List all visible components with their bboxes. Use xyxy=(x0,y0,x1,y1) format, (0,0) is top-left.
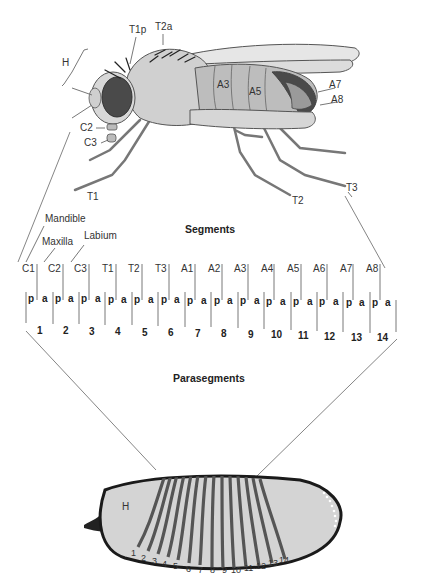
compartment-a: a xyxy=(121,294,127,305)
segment-label: T2 xyxy=(128,263,140,274)
label-labium: Labium xyxy=(84,230,117,241)
parasegment-numbers: 1 2 3 4 5 6 7 8 9 10 11 12 13 14 xyxy=(37,325,389,343)
adult-fly-illustration xyxy=(72,44,359,195)
compartment-p: p xyxy=(28,293,34,304)
segment-label: A5 xyxy=(287,263,300,274)
segment-label: A1 xyxy=(181,263,194,274)
parasegment-number: 8 xyxy=(221,328,227,339)
parasegments-title: Parasegments xyxy=(173,372,245,384)
parasegment-number: 2 xyxy=(63,325,69,336)
compartment-p: p xyxy=(108,294,114,305)
compartment-a: a xyxy=(95,293,101,304)
compartment-p: p xyxy=(161,294,167,305)
compartment-p: p xyxy=(240,295,246,306)
label-t1: T1 xyxy=(87,191,99,202)
mouthpart-labels: Mandible Maxilla Labium xyxy=(26,213,117,262)
embryo-stripe-number: 5 xyxy=(173,561,178,571)
label-c3: C3 xyxy=(84,137,97,148)
parasegment-number: 14 xyxy=(377,332,389,343)
parasegment-number: 1 xyxy=(37,325,43,336)
label-maxilla: Maxilla xyxy=(42,236,74,247)
embryo-stripe-number: 8 xyxy=(210,565,215,575)
segments-title: Segments xyxy=(185,223,235,235)
segment-label: A7 xyxy=(340,263,353,274)
segment-label: C2 xyxy=(48,263,61,274)
embryo-stripe-number: 10 xyxy=(231,565,241,575)
parasegment-number: 10 xyxy=(271,329,283,340)
embryo-stripe-number: 6 xyxy=(186,564,191,574)
segment-label: A6 xyxy=(313,263,326,274)
parasegment-number: 13 xyxy=(351,332,363,343)
embryo-stripe-number: 7 xyxy=(198,565,203,575)
compartment-a: a xyxy=(227,295,233,306)
label-t3: T3 xyxy=(346,182,358,193)
embryo-stripe-number: 12 xyxy=(256,561,266,571)
label-a8: A8 xyxy=(331,94,344,105)
compartment-p: p xyxy=(134,294,140,305)
compartment-a: a xyxy=(280,296,286,307)
embryo-stripe-number: 14 xyxy=(279,555,289,565)
segment-label: C1 xyxy=(22,263,35,274)
label-c2: C2 xyxy=(80,122,93,133)
parasegment-number: 6 xyxy=(168,327,174,338)
segment-label: C3 xyxy=(74,263,87,274)
compartment-p: p xyxy=(372,297,378,308)
parasegment-number: 12 xyxy=(324,331,336,342)
compartment-a: a xyxy=(385,297,391,308)
segment-label: A8 xyxy=(366,263,379,274)
embryo-stripe-number: 9 xyxy=(222,565,227,575)
segment-label: T1 xyxy=(102,263,114,274)
compartment-a: a xyxy=(359,297,365,308)
compartment-a: a xyxy=(42,293,48,304)
compartment-p: p xyxy=(266,296,272,307)
compartment-a: a xyxy=(201,295,207,306)
label-mandible: Mandible xyxy=(45,213,86,224)
fly-compound-eye xyxy=(102,77,132,117)
segment-label: A3 xyxy=(234,263,247,274)
label-t2: T2 xyxy=(292,195,304,206)
compartment-a: a xyxy=(333,296,339,307)
segment-label: A4 xyxy=(261,263,274,274)
embryo-illustration: H xyxy=(84,475,341,569)
compartment-p: p xyxy=(214,295,220,306)
compartment-a: a xyxy=(307,296,313,307)
compartment-p: p xyxy=(346,297,352,308)
compartment-p: p xyxy=(293,296,299,307)
label-head: H xyxy=(62,57,69,68)
compartment-p: p xyxy=(187,295,193,306)
compartment-a: a xyxy=(68,293,74,304)
embryo-stripe-number: 4 xyxy=(162,559,167,569)
compartment-a: a xyxy=(148,294,154,305)
embryo-stripe-number: 13 xyxy=(268,558,278,568)
compartment-labels: p a p a p a p a p a p a p a p a p a p a … xyxy=(28,293,391,308)
compartment-p: p xyxy=(55,293,61,304)
compartment-a: a xyxy=(174,294,180,305)
label-t2a: T2a xyxy=(155,21,173,32)
label-a3: A3 xyxy=(217,79,230,90)
label-a5: A5 xyxy=(249,86,262,97)
embryo-head-label: H xyxy=(122,501,129,512)
embryo-stripe-number: 11 xyxy=(244,563,253,573)
segment-labels: C1 C2 C3 T1 T2 T3 A1 A2 A3 A4 A5 A6 A7 A… xyxy=(22,263,379,274)
parasegment-number: 5 xyxy=(142,327,148,338)
embryo-stripe-number: 2 xyxy=(141,553,146,563)
embryo-stripe-number: 3 xyxy=(152,556,157,566)
compartment-a: a xyxy=(254,295,260,306)
segmentation-diagram: H T1p T2a A3 A5 A7 A8 C2 C3 T1 T2 T3 Seg… xyxy=(0,0,422,575)
parasegment-number: 9 xyxy=(248,329,254,340)
segments-to-embryo-connectors xyxy=(26,331,397,476)
parasegment-number: 4 xyxy=(115,326,121,337)
segment-label: T3 xyxy=(155,263,167,274)
segment-label: A2 xyxy=(208,263,221,274)
embryo-stripe-number: 1 xyxy=(131,548,136,558)
label-a7: A7 xyxy=(329,79,342,90)
compartment-p: p xyxy=(319,296,325,307)
label-t1p: T1p xyxy=(129,24,147,35)
parasegment-number: 11 xyxy=(298,330,309,341)
parasegment-number: 7 xyxy=(195,328,201,339)
parasegment-number: 3 xyxy=(89,326,95,337)
compartment-p: p xyxy=(81,293,87,304)
